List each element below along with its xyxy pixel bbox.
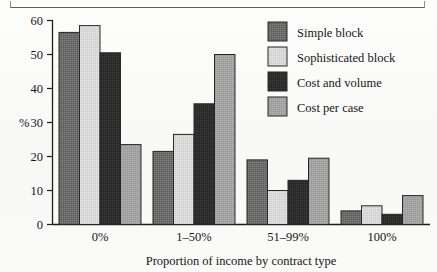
legend-label-cost-and-volume: Cost and volume [297,76,382,90]
bar-1-50-simple-block [153,151,174,224]
y-tick-label-0: 0 [37,218,43,232]
legend-label-sophisticated-block: Sophisticated block [297,51,396,65]
x-tick-label-1-50: 1–50% [176,230,211,244]
bar-0-cost-per-case [121,145,142,225]
y-tick-label-40: 40 [31,82,44,96]
bar-51-99-cost-and-volume [288,180,309,224]
legend-swatch-simple-block [268,22,287,41]
y-tick-label-30: 30 [31,116,44,130]
bar-100-cost-per-case [403,196,424,225]
x-tick-label-51-99: 51–99% [267,230,309,244]
y-tick-label-60: 60 [31,14,44,28]
bar-100-sophisticated-block [362,206,383,225]
bar-chart: 0 10 20 30 40 50 60 % 0%1–50%51–99%100% … [0,0,437,272]
bar-0-cost-and-volume [100,53,121,225]
legend-label-simple-block: Simple block [297,26,364,40]
bar-51-99-sophisticated-block [268,191,289,225]
y-tick-label-20: 20 [31,150,44,164]
bar-1-50-cost-per-case [215,55,236,225]
bar-1-50-cost-and-volume [194,104,215,225]
bar-0-simple-block [59,32,80,224]
x-tick-label-100: 100% [367,230,396,244]
legend-swatch-cost-per-case [268,97,287,116]
y-tick-label-50: 50 [31,48,44,62]
legend-swatch-cost-and-volume [268,72,287,91]
legend-swatch-sophisticated-block [268,47,287,66]
y-tick-label-10: 10 [31,184,44,198]
x-axis-category-labels: 0%1–50%51–99%100% [92,230,397,244]
bar-0-sophisticated-block [80,26,101,225]
x-axis-title: Proportion of income by contract type [146,254,337,268]
legend: Simple blockSophisticated blockCost and … [268,22,396,116]
y-axis-label: % [19,116,29,130]
bar-51-99-cost-per-case [309,158,330,224]
figure-canvas: 0 10 20 30 40 50 60 % 0%1–50%51–99%100% … [0,0,437,272]
bar-51-99-simple-block [247,160,268,225]
bar-100-cost-and-volume [382,214,403,224]
x-tick-label-0: 0% [92,230,109,244]
y-axis-ticks: 0 10 20 30 40 50 60 [31,14,53,232]
bar-100-simple-block [341,211,362,225]
bar-1-50-sophisticated-block [174,134,195,224]
legend-label-cost-per-case: Cost per case [297,101,364,115]
